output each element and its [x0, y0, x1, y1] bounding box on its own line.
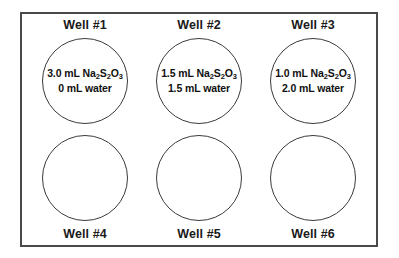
well-circle-4[interactable]: [42, 135, 128, 221]
well-circle-5[interactable]: [156, 135, 242, 221]
well-cell-3: Well #3 1.0 mL Na2S2O3 2.0 mL water: [256, 18, 370, 130]
well-label-5: Well #5: [177, 227, 221, 241]
well-label-6: Well #6: [291, 227, 335, 241]
well-label-4: Well #4: [63, 227, 107, 241]
well-circle-3[interactable]: 1.0 mL Na2S2O3 2.0 mL water: [270, 38, 356, 124]
well-3-reagent-line: 1.0 mL Na2S2O3: [275, 67, 351, 82]
well-1-water-line: 0 mL water: [58, 82, 112, 96]
well-3-water-line: 2.0 mL water: [282, 82, 344, 96]
well-circle-1[interactable]: 3.0 mL Na2S2O3 0 mL water: [42, 38, 128, 124]
well-cell-2: Well #2 1.5 mL Na2S2O3 1.5 mL water: [142, 18, 256, 130]
well-cell-5: Well #5: [142, 130, 256, 242]
well-contents-2: 1.5 mL Na2S2O3 1.5 mL water: [161, 67, 237, 95]
well-circle-2[interactable]: 1.5 mL Na2S2O3 1.5 mL water: [156, 38, 242, 124]
well-2-reagent-line: 1.5 mL Na2S2O3: [161, 67, 237, 82]
well-plate-diagram: Well #1 3.0 mL Na2S2O3 0 mL water Well #…: [0, 0, 399, 258]
well-1-reagent-line: 3.0 mL Na2S2O3: [47, 67, 123, 82]
well-contents-3: 1.0 mL Na2S2O3 2.0 mL water: [275, 67, 351, 95]
well-label-2: Well #2: [177, 18, 221, 32]
well-cell-4: Well #4: [28, 130, 142, 242]
well-circle-6[interactable]: [270, 135, 356, 221]
well-cell-6: Well #6: [256, 130, 370, 242]
well-cell-1: Well #1 3.0 mL Na2S2O3 0 mL water: [28, 18, 142, 130]
well-label-1: Well #1: [63, 18, 107, 32]
well-grid: Well #1 3.0 mL Na2S2O3 0 mL water Well #…: [20, 12, 378, 247]
well-2-water-line: 1.5 mL water: [168, 82, 230, 96]
well-contents-1: 3.0 mL Na2S2O3 0 mL water: [47, 67, 123, 95]
well-label-3: Well #3: [291, 18, 335, 32]
